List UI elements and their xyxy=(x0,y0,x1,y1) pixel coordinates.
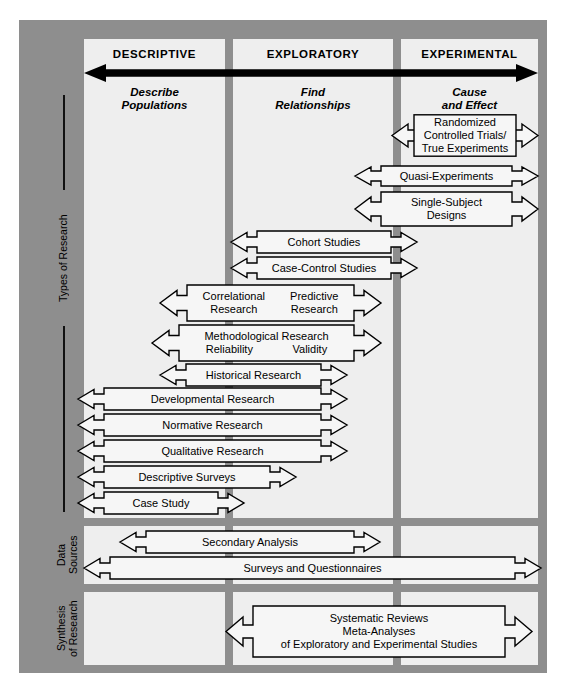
column-subtitle-descriptive-line2: Populations xyxy=(84,99,225,112)
bar-secondary-analysis[interactable]: Secondary Analysis xyxy=(120,530,380,554)
figure-root: DESCRIPTIVE EXPLORATORY EXPERIMENTAL Des… xyxy=(0,0,567,697)
column-subtitle-descriptive-line1: Describe xyxy=(84,86,225,99)
column-heading-experimental: EXPERIMENTAL xyxy=(401,48,538,60)
bar-historical-research[interactable]: Historical Research xyxy=(160,363,347,387)
column-subtitle-descriptive: Describe Populations xyxy=(84,86,225,112)
bar-surveys-and-questionnaires[interactable]: Surveys and Questionnaires xyxy=(84,556,541,580)
column-heading-exploratory: EXPLORATORY xyxy=(233,48,393,60)
bar-systematic-reviews-meta-analyses[interactable]: Systematic Reviews Meta-Analyses of Expl… xyxy=(226,605,532,658)
row-label-synthesis-of-research: Synthesis of Research xyxy=(55,592,79,665)
continuum-double-arrow-icon xyxy=(84,64,538,82)
bar-correlational-predictive-research[interactable]: Correlational Research Predictive Resear… xyxy=(160,284,381,322)
row-label-data-sources-line1: Data xyxy=(55,544,67,566)
row-label-synthesis-line2: of Research xyxy=(67,600,79,657)
bar-qualitative-research[interactable]: Qualitative Research xyxy=(78,439,347,463)
column-heading-descriptive: DESCRIPTIVE xyxy=(84,48,225,60)
types-of-research-rule-top xyxy=(63,95,65,190)
column-subtitle-exploratory-line2: Relationships xyxy=(233,99,393,112)
bar-developmental-research[interactable]: Developmental Research xyxy=(78,387,347,411)
panel-descriptive-synth xyxy=(84,592,225,665)
column-subtitle-experimental: Cause and Effect xyxy=(401,86,538,112)
bar-quasi-experiments[interactable]: Quasi-Experiments xyxy=(355,165,538,187)
row-label-types-of-research: Types of Research xyxy=(57,193,71,323)
column-subtitle-experimental-line2: and Effect xyxy=(401,99,538,112)
row-label-synthesis-line1: Synthesis xyxy=(55,606,67,652)
bar-methodological-research[interactable]: Methodological Research Reliability Vali… xyxy=(152,324,381,362)
types-of-research-rule-bottom xyxy=(63,326,65,512)
column-subtitle-experimental-line1: Cause xyxy=(401,86,538,99)
bar-randomized-controlled-trials[interactable]: Randomized Controlled Trials/ True Exper… xyxy=(392,114,538,157)
bar-case-study[interactable]: Case Study xyxy=(78,491,244,515)
column-subtitle-exploratory-line1: Find xyxy=(233,86,393,99)
bar-normative-research[interactable]: Normative Research xyxy=(78,413,347,437)
row-label-data-sources-line2: Sources xyxy=(67,536,79,575)
bar-single-subject-designs[interactable]: Single-Subject Designs xyxy=(355,191,538,227)
bar-descriptive-surveys[interactable]: Descriptive Surveys xyxy=(78,465,296,489)
row-label-data-sources: Data Sources xyxy=(55,526,79,584)
bar-case-control-studies[interactable]: Case-Control Studies xyxy=(231,256,417,280)
column-subtitle-exploratory: Find Relationships xyxy=(233,86,393,112)
bar-cohort-studies[interactable]: Cohort Studies xyxy=(231,230,417,254)
